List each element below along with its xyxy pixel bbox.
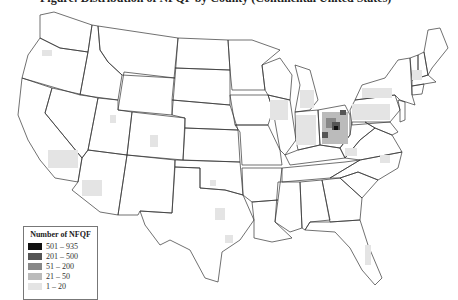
legend-title: Number of NFQF xyxy=(28,230,93,239)
legend-swatch xyxy=(28,283,42,290)
state-north-carolina xyxy=(330,152,402,180)
county-cell xyxy=(334,126,338,130)
county-cell xyxy=(48,150,78,168)
legend-item: 51 – 200 xyxy=(28,261,93,271)
county-cell xyxy=(225,235,233,243)
state-washington xyxy=(40,12,92,52)
legend-item: 21 – 50 xyxy=(28,271,93,281)
county-cell xyxy=(365,245,371,265)
state-idaho xyxy=(80,25,122,100)
county-cell xyxy=(352,104,390,120)
state-new-mexico xyxy=(118,155,175,215)
legend-label: 21 – 50 xyxy=(46,272,70,281)
county-cell xyxy=(300,90,314,108)
legend-label: 201 – 500 xyxy=(46,252,78,261)
county-cell xyxy=(340,110,346,115)
legend-label: 51 – 200 xyxy=(46,262,74,271)
county-cell xyxy=(42,50,52,56)
state-alabama xyxy=(300,180,330,230)
state-kansas xyxy=(183,128,240,162)
county-cell xyxy=(215,208,225,220)
state-iowa xyxy=(230,95,273,125)
county-cell xyxy=(380,155,390,163)
state-louisiana xyxy=(252,200,292,242)
state-maryland xyxy=(365,122,398,135)
state-missouri xyxy=(235,125,282,165)
state-montana xyxy=(98,26,178,78)
county-shading xyxy=(42,50,422,265)
county-cell xyxy=(412,70,422,80)
state-oregon xyxy=(22,38,88,95)
legend-item: 201 – 500 xyxy=(28,251,93,261)
legend-label: 501 – 935 xyxy=(46,242,78,251)
state-maine xyxy=(424,28,448,75)
county-cell xyxy=(345,148,357,156)
county-cell xyxy=(362,88,392,98)
state-nebraska xyxy=(172,100,238,130)
county-cell xyxy=(296,115,316,145)
state-wisconsin xyxy=(262,58,292,100)
state-nevada xyxy=(45,88,98,158)
legend-swatch xyxy=(28,263,42,270)
legend-swatch xyxy=(28,243,42,250)
state-minnesota xyxy=(228,40,280,90)
legend: Number of NFQF 501 – 935201 – 50051 – 20… xyxy=(23,226,98,300)
county-cell xyxy=(210,180,216,186)
legend-label: 1 – 20 xyxy=(46,282,66,291)
state-texas xyxy=(140,167,254,282)
state-utah xyxy=(88,98,132,155)
legend-swatch xyxy=(28,273,42,280)
state-south-dakota xyxy=(172,68,230,105)
state-tennessee xyxy=(282,160,360,182)
county-cell xyxy=(150,135,158,147)
state-wyoming xyxy=(118,72,175,115)
legend-item: 501 – 935 xyxy=(28,241,93,251)
state-kentucky xyxy=(285,145,345,165)
legend-swatch xyxy=(28,253,42,260)
county-cell xyxy=(82,180,102,196)
state-north-dakota xyxy=(175,38,230,70)
state-connecticut xyxy=(412,84,424,95)
state-arkansas xyxy=(242,168,282,202)
county-cell xyxy=(322,132,328,138)
state-georgia xyxy=(322,178,362,222)
county-cell xyxy=(110,115,116,123)
state-oklahoma xyxy=(175,160,243,195)
county-cell xyxy=(270,100,288,120)
legend-item: 1 – 20 xyxy=(28,281,93,291)
